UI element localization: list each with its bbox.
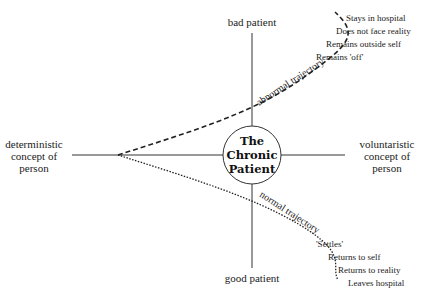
axis-label-left: deterministic concept of person [0, 138, 68, 174]
axis-label-top: bad patient [212, 16, 292, 28]
axis-label-right-line: person [350, 162, 424, 174]
axis-label-right-line: concept of [350, 150, 424, 162]
abnormal-outcome-item: Remains 'off' [316, 51, 363, 64]
axis-label-left-line: deterministic [0, 138, 68, 150]
normal-outcome-item: Returns to self [328, 251, 381, 264]
center-label-line: The [224, 134, 280, 148]
abnormal-outcome-item: Stays in hospital [346, 12, 406, 25]
axis-label-right-line: voluntaristic [350, 138, 424, 150]
normal-trajectory-label: normal trajectory [258, 188, 322, 235]
axis-label-bottom: good patient [207, 272, 297, 284]
abnormal-outcome-item: Remains outside self [326, 38, 401, 51]
center-label: The Chronic Patient [224, 134, 280, 176]
axis-label-right: voluntaristic concept of person [350, 138, 424, 174]
center-label-line: Patient [224, 162, 280, 176]
normal-outcome-item: Leaves hospital [348, 277, 404, 290]
normal-outcome-item: 'Settles' [316, 238, 343, 251]
normal-outcome-item: Returns to reality [338, 264, 401, 277]
abnormal-outcome-item: Does not face reality [336, 25, 411, 38]
center-label-line: Chronic [224, 148, 280, 162]
axis-label-left-line: person [0, 162, 68, 174]
axis-label-left-line: concept of [0, 150, 68, 162]
